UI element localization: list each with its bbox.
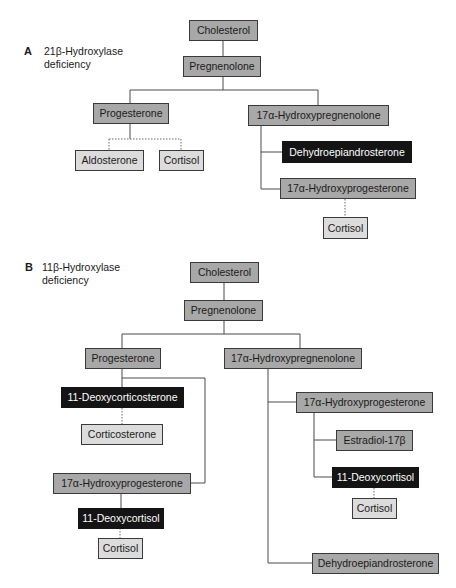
b-node-cortisol-left: Cortisol <box>98 538 143 559</box>
b-node-pregnenolone: Pregnenolone <box>184 300 263 321</box>
panel-a-title-line1: 21β-Hydroxylase <box>44 45 123 58</box>
panel-a-title: 21β-Hydroxylase deficiency <box>44 45 123 71</box>
a-node-17a-hydroxyprogesterone: 17α-Hydroxyprogesterone <box>280 178 416 199</box>
panel-b-title: 11β-Hydroxylase deficiency <box>42 261 120 287</box>
b-node-11-deoxycorticosterone: 11-Deoxycorticosterone <box>61 387 184 408</box>
a-node-cholesterol: Cholesterol <box>189 20 258 41</box>
a-node-progesterone: Progesterone <box>93 103 169 124</box>
a-node-pregnenolone: Pregnenolone <box>183 56 261 77</box>
b-node-corticosterone: Corticosterone <box>81 424 163 445</box>
panel-b-letter: B <box>25 261 33 273</box>
b-node-progesterone: Progesterone <box>85 348 161 369</box>
b-node-11-deoxycortisol-left: 11-Deoxycortisol <box>78 508 164 529</box>
b-node-17a-hydroxypregnenolone: 17α-Hydroxypregnenolone <box>224 348 362 369</box>
steroidogenesis-diagram: A 21β-Hydroxylase deficiency Cholesterol… <box>0 0 456 588</box>
panel-a-title-line2: deficiency <box>44 58 123 71</box>
a-node-aldosterone: Aldosterone <box>75 150 144 171</box>
a-node-dehydroepiandrosterone: Dehydroepiandrosterone <box>282 141 412 163</box>
a-node-17a-hydroxypregnenolone: 17α-Hydroxypregnenolone <box>248 105 389 126</box>
b-node-estradiol-17b: Estradiol-17β <box>336 430 413 451</box>
panel-a-letter: A <box>24 45 32 57</box>
b-node-dehydroepiandrosterone: Dehydroepiandrosterone <box>312 553 439 574</box>
panel-b-title-line2: deficiency <box>42 274 120 287</box>
panel-b-title-line1: 11β-Hydroxylase <box>42 261 120 274</box>
b-node-17a-hydroxyprogesterone-right: 17α-Hydroxyprogesterone <box>296 392 433 413</box>
b-node-cholesterol: Cholesterol <box>190 262 259 283</box>
b-node-cortisol-right: Cortisol <box>352 498 397 519</box>
a-node-cortisol-right: Cortisol <box>323 217 368 239</box>
b-node-11-deoxycortisol-right: 11-Deoxycortisol <box>332 467 419 488</box>
b-node-17a-hydroxyprogesterone-left: 17α-Hydroxyprogesterone <box>53 473 191 494</box>
a-node-cortisol-left: Cortisol <box>159 150 204 171</box>
